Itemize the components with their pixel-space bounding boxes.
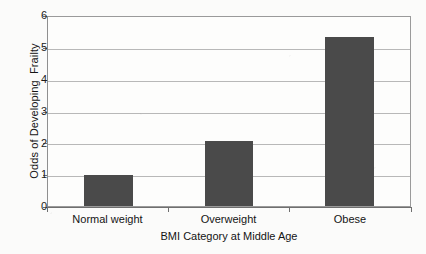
plot-area (47, 16, 411, 207)
y-axis-line (47, 16, 48, 208)
y-axis-title: Odds of Developing Frailty (28, 21, 40, 201)
x-tick-mark-2 (289, 207, 290, 212)
y-tick-label-6: 6 (33, 10, 47, 21)
x-axis-line (47, 207, 412, 208)
y-axis-title-wrapper: Odds of Developing Frailty (14, 0, 28, 220)
x-tick-label-normal-weight: Normal weight (47, 213, 168, 226)
bar-obese (325, 37, 374, 206)
x-axis-title: BMI Category at Middle Age (47, 230, 411, 242)
x-tick-mark-1 (168, 207, 169, 212)
x-tick-label-overweight: Overweight (168, 213, 289, 226)
bar-normal-weight (84, 175, 133, 207)
y-tick-label-0: 0 (33, 201, 47, 212)
x-tick-label-obese: Obese (289, 213, 411, 226)
bar-overweight (205, 141, 254, 206)
x-tick-mark-left (47, 207, 48, 212)
bar-chart-figure: 6 5 4 3 2 1 0 Odds of Developing Frailty… (0, 0, 426, 254)
x-tick-mark-right (411, 207, 412, 212)
